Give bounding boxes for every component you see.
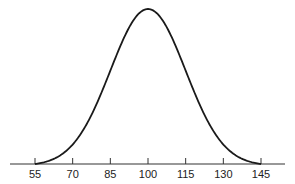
x-tick-label: 70 — [67, 168, 79, 180]
x-tick-label: 100 — [139, 168, 157, 180]
x-axis-ticks — [35, 158, 261, 164]
normal-curve — [35, 9, 261, 164]
bell-curve-chart: 557085100115130145 — [0, 0, 295, 184]
x-tick-label: 130 — [214, 168, 232, 180]
x-tick-label: 55 — [29, 168, 41, 180]
x-axis-labels: 557085100115130145 — [29, 168, 270, 180]
x-tick-label: 85 — [104, 168, 116, 180]
x-tick-label: 145 — [252, 168, 270, 180]
x-tick-label: 115 — [177, 168, 195, 180]
